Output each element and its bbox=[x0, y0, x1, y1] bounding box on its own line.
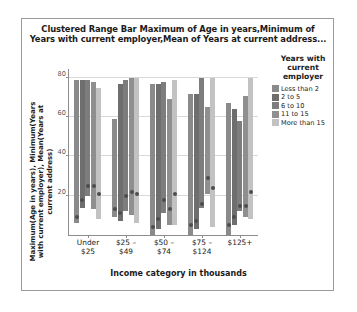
mean-marker-dot[interactable] bbox=[244, 204, 248, 208]
legend-item[interactable]: 6 to 10 bbox=[272, 102, 334, 110]
range-bar[interactable] bbox=[172, 80, 177, 225]
y-tick-mark bbox=[66, 77, 69, 78]
legend-item-label: 6 to 10 bbox=[281, 102, 304, 110]
range-bar[interactable] bbox=[80, 80, 85, 208]
mean-marker-dot[interactable] bbox=[118, 211, 122, 215]
bar-cluster bbox=[188, 69, 216, 235]
legend-item-label: 2 to 5 bbox=[281, 93, 300, 101]
mean-marker-dot[interactable] bbox=[211, 186, 215, 190]
range-bar[interactable] bbox=[167, 99, 172, 225]
legend-swatch-icon bbox=[272, 102, 279, 109]
mean-marker-dot[interactable] bbox=[135, 192, 139, 196]
x-tick-label: $75 – $124 bbox=[192, 239, 212, 256]
bar-cluster bbox=[112, 69, 140, 235]
legend-items: Less than 22 to 56 to 1011 to 15More tha… bbox=[272, 85, 334, 127]
range-bar[interactable] bbox=[112, 119, 117, 217]
y-tick-label: 80 bbox=[58, 70, 66, 78]
range-bar[interactable] bbox=[248, 78, 253, 219]
range-bar[interactable] bbox=[96, 88, 101, 220]
mean-marker-dot[interactable] bbox=[227, 223, 231, 227]
mean-marker-dot[interactable] bbox=[206, 176, 210, 180]
range-bar[interactable] bbox=[226, 103, 231, 235]
mean-marker-dot[interactable] bbox=[124, 194, 128, 198]
mean-marker-dot[interactable] bbox=[97, 192, 101, 196]
y-tick-mark bbox=[66, 155, 69, 156]
legend-swatch-icon bbox=[272, 85, 279, 92]
bar-cluster bbox=[74, 69, 102, 235]
y-axis-title: Maximum(Age in years), Minimum(Years wit… bbox=[29, 94, 54, 269]
mean-marker-dot[interactable] bbox=[130, 190, 134, 194]
range-bar[interactable] bbox=[237, 121, 242, 211]
mean-marker-dot[interactable] bbox=[249, 190, 253, 194]
legend-item-label: More than 15 bbox=[281, 119, 325, 127]
mean-marker-dot[interactable] bbox=[156, 217, 160, 221]
range-bar[interactable] bbox=[232, 109, 237, 225]
legend-swatch-icon bbox=[272, 119, 279, 126]
range-bar[interactable] bbox=[210, 78, 215, 227]
legend-item-label: Less than 2 bbox=[281, 85, 319, 93]
mean-marker-dot[interactable] bbox=[194, 219, 198, 223]
mean-marker-dot[interactable] bbox=[80, 198, 84, 202]
chart-legend: Years with current employer Less than 22… bbox=[272, 55, 334, 127]
range-bar[interactable] bbox=[205, 107, 210, 193]
legend-item[interactable]: 11 to 15 bbox=[272, 110, 334, 118]
range-bar[interactable] bbox=[91, 82, 96, 210]
mean-marker-dot[interactable] bbox=[92, 184, 96, 188]
y-tick-label: 20 bbox=[58, 188, 66, 196]
range-bar[interactable] bbox=[199, 78, 204, 208]
legend-swatch-icon bbox=[272, 94, 279, 101]
x-tick-label: $50 – $74 bbox=[154, 239, 174, 256]
chart-title: Clustered Range Bar Maximum of Age in ye… bbox=[28, 24, 328, 44]
legend-item[interactable]: 2 to 5 bbox=[272, 93, 334, 101]
x-tick-label: $25 – $49 bbox=[116, 239, 136, 256]
mean-marker-dot[interactable] bbox=[238, 204, 242, 208]
legend-item-label: 11 to 15 bbox=[281, 110, 309, 118]
bar-cluster bbox=[226, 69, 254, 235]
range-bar[interactable] bbox=[129, 78, 134, 216]
range-bar[interactable] bbox=[161, 82, 166, 214]
range-bar[interactable] bbox=[134, 78, 139, 223]
y-tick-mark bbox=[66, 195, 69, 196]
range-bar[interactable] bbox=[150, 84, 155, 235]
x-tick-label: $125+ bbox=[227, 239, 252, 248]
range-bar[interactable] bbox=[74, 80, 79, 223]
mean-marker-dot[interactable] bbox=[200, 202, 204, 206]
mean-marker-dot[interactable] bbox=[232, 215, 236, 219]
chart-frame: Clustered Range Bar Maximum of Age in ye… bbox=[21, 18, 334, 291]
range-bar[interactable] bbox=[194, 94, 199, 230]
x-axis-title: Income category in thousands bbox=[22, 269, 335, 278]
mean-marker-dot[interactable] bbox=[162, 198, 166, 202]
bar-cluster bbox=[150, 69, 178, 235]
range-bar[interactable] bbox=[188, 94, 193, 235]
chart-screenshot: Clustered Range Bar Maximum of Age in ye… bbox=[0, 0, 357, 312]
mean-marker-dot[interactable] bbox=[113, 207, 117, 211]
legend-swatch-icon bbox=[272, 111, 279, 118]
x-tick-label: Under $25 bbox=[77, 239, 99, 256]
mean-marker-dot[interactable] bbox=[75, 215, 79, 219]
y-tick-label: 60 bbox=[58, 109, 66, 117]
y-tick-mark bbox=[66, 116, 69, 117]
range-bar[interactable] bbox=[123, 80, 128, 212]
mean-marker-dot[interactable] bbox=[168, 207, 172, 211]
legend-title: Years with current employer bbox=[272, 55, 334, 82]
mean-marker-dot[interactable] bbox=[151, 225, 155, 229]
range-bar[interactable] bbox=[243, 96, 248, 218]
range-bar[interactable] bbox=[85, 80, 90, 196]
plot-area: 20406080Under $25$25 – $49$50 – $74$75 –… bbox=[68, 69, 258, 236]
legend-item[interactable]: More than 15 bbox=[272, 119, 334, 127]
range-bar[interactable] bbox=[156, 84, 161, 229]
mean-marker-dot[interactable] bbox=[189, 223, 193, 227]
mean-marker-dot[interactable] bbox=[86, 184, 90, 188]
mean-marker-dot[interactable] bbox=[173, 192, 177, 196]
range-bar[interactable] bbox=[118, 84, 123, 222]
y-tick-label: 40 bbox=[58, 148, 66, 156]
legend-item[interactable]: Less than 2 bbox=[272, 85, 334, 93]
